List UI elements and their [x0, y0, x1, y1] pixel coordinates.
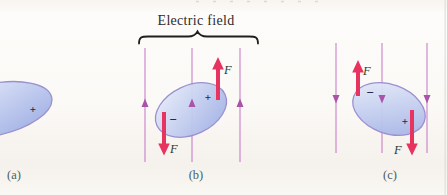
field-line-arrowhead-down: [333, 95, 340, 104]
panel-label-b: (b): [189, 168, 204, 182]
panel-b: + − F F Electric field (b): [139, 13, 258, 182]
panel-label-c: (c): [383, 168, 397, 182]
force-label: F: [223, 63, 232, 77]
molecule-ellipse: [0, 72, 57, 148]
field-line-arrowhead-down: [424, 95, 431, 104]
plus-charge-label: +: [30, 103, 36, 115]
force-arrowhead: [406, 144, 418, 156]
electric-field-label: Electric field: [158, 13, 235, 28]
plus-charge-label: +: [402, 115, 408, 127]
force-label: F: [362, 64, 371, 78]
field-line-arrowhead-up: [142, 99, 149, 108]
force-arrowhead: [158, 144, 170, 156]
dipole-field-diagram: + (a) + − F F Electric field (b): [0, 0, 447, 195]
minus-charge-label: −: [366, 85, 373, 100]
field-region-brace: [139, 32, 258, 44]
plus-charge-label: +: [205, 91, 211, 103]
force-label: F: [169, 142, 178, 156]
page-edge: [445, 0, 446, 195]
molecule-ellipse: [147, 72, 236, 148]
panel-c: − + F F (c): [333, 43, 433, 182]
force-arrowhead: [212, 57, 224, 70]
panel-a: + (a): [0, 72, 57, 182]
force-label: F: [393, 143, 402, 157]
minus-charge-label: −: [169, 112, 176, 127]
field-line-arrowhead-up: [237, 99, 244, 108]
panel-label-a: (a): [7, 168, 21, 182]
figure-canvas: + (a) + − F F Electric field (b): [0, 0, 447, 195]
